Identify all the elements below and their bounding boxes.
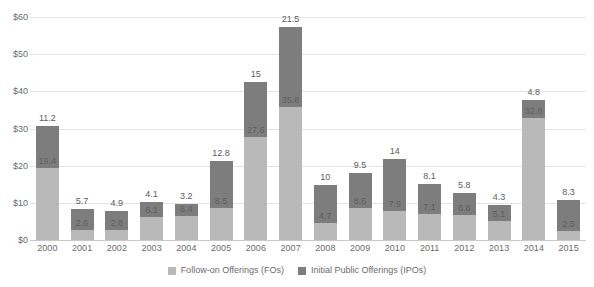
bar-value-label-fo: 2.5 [557, 220, 580, 229]
bar-group[interactable]: 5.86.8 [453, 17, 476, 240]
bar-value-label-fo: 32.8 [522, 107, 545, 116]
bar-value-label-fo: 8.5 [210, 197, 233, 206]
bar-value-label-fo: 2.6 [71, 219, 94, 228]
y-axis-tick-label: $40 [2, 87, 28, 96]
bar-value-label-fo: 35.8 [279, 96, 302, 105]
bar-value-label-ipo: 4.9 [105, 199, 128, 208]
bar-value-label-ipo: 12.8 [210, 149, 233, 158]
x-axis-tick-label: 2010 [378, 243, 413, 253]
x-axis-tick-label: 2003 [134, 243, 169, 253]
y-axis-tick-label: $20 [2, 162, 28, 171]
bar-value-label-fo: 4.7 [314, 212, 337, 221]
x-axis-tick-label: 2007 [273, 243, 308, 253]
bar-value-label-ipo: 10 [314, 173, 337, 182]
bar-segment-fo[interactable] [210, 208, 233, 240]
bar-value-label-fo: 6.4 [175, 205, 198, 214]
stacked-bar-chart: $0$10$20$30$40$50$60 11.219.45.72.64.92.… [0, 0, 594, 287]
bar-group[interactable]: 9.58.6 [349, 17, 372, 240]
y-axis-tick-label: $30 [2, 125, 28, 134]
bar-group[interactable]: 8.17.1 [418, 17, 441, 240]
bar-value-label-fo: 6.8 [453, 204, 476, 213]
bar-value-label-ipo: 14 [383, 147, 406, 156]
bar-value-label-ipo: 3.2 [175, 192, 198, 201]
bar-segment-fo[interactable] [488, 221, 511, 240]
x-axis: 2000200120022003200420052006200720082009… [30, 243, 586, 257]
bar-group[interactable]: 3.26.4 [175, 17, 198, 240]
bar-group[interactable]: 12.88.5 [210, 17, 233, 240]
bar-segment-fo[interactable] [105, 230, 128, 240]
bar-value-label-fo: 27.6 [244, 126, 267, 135]
bar-value-label-ipo: 9.5 [349, 161, 372, 170]
legend-label: Follow-on Offerings (FOs) [181, 266, 284, 275]
bar-value-label-ipo: 21.5 [279, 15, 302, 24]
bar-value-label-ipo: 8.3 [557, 188, 580, 197]
bar-segment-fo[interactable] [557, 231, 580, 240]
bar-group[interactable]: 21.535.8 [279, 17, 302, 240]
bar-group[interactable]: 8.32.5 [557, 17, 580, 240]
bar-segment-fo[interactable] [314, 223, 337, 240]
legend-item-ipo[interactable]: Initial Public Offerings (IPOs) [298, 266, 426, 275]
x-axis-tick-label: 2006 [239, 243, 274, 253]
bar-value-label-ipo: 4.1 [140, 190, 163, 199]
x-axis-tick-label: 2011 [412, 243, 447, 253]
bar-group[interactable]: 4.92.8 [105, 17, 128, 240]
legend-swatch-icon [168, 267, 176, 275]
bar-group[interactable]: 1527.6 [244, 17, 267, 240]
y-axis-tick-label: $60 [2, 13, 28, 22]
bar-value-label-ipo: 11.2 [36, 114, 59, 123]
bar-group[interactable]: 4.35.1 [488, 17, 511, 240]
bar-value-label-ipo: 4.3 [488, 193, 511, 202]
bar-segment-fo[interactable] [453, 215, 476, 240]
bar-group[interactable]: 11.219.4 [36, 17, 59, 240]
bar-value-label-fo: 19.4 [36, 157, 59, 166]
x-axis-tick-label: 2008 [308, 243, 343, 253]
bar-group[interactable]: 4.16.1 [140, 17, 163, 240]
chart-legend: Follow-on Offerings (FOs)Initial Public … [0, 266, 594, 275]
bar-segment-fo[interactable] [349, 208, 372, 240]
bar-segment-fo[interactable] [383, 211, 406, 240]
bar-value-label-ipo: 8.1 [418, 172, 441, 181]
x-axis-tick-label: 2013 [482, 243, 517, 253]
bar-value-label-fo: 7.9 [383, 200, 406, 209]
x-axis-tick-label: 2009 [343, 243, 378, 253]
bar-group[interactable]: 5.72.6 [71, 17, 94, 240]
x-axis-tick-label: 2004 [169, 243, 204, 253]
x-axis-tick-label: 2005 [204, 243, 239, 253]
bar-group[interactable]: 4.832.8 [522, 17, 545, 240]
bar-segment-fo[interactable] [522, 118, 545, 240]
bar-segment-fo[interactable] [71, 230, 94, 240]
bar-value-label-ipo: 5.8 [453, 181, 476, 190]
bar-segment-fo[interactable] [244, 137, 267, 240]
bars-layer: 11.219.45.72.64.92.84.16.13.26.412.88.51… [30, 17, 586, 240]
bar-value-label-fo: 8.6 [349, 197, 372, 206]
y-axis-tick-label: $10 [2, 199, 28, 208]
bar-group[interactable]: 147.9 [383, 17, 406, 240]
x-axis-tick-label: 2014 [517, 243, 552, 253]
gridline-0 [30, 240, 586, 241]
legend-item-fo[interactable]: Follow-on Offerings (FOs) [168, 266, 284, 275]
x-axis-tick-label: 2001 [65, 243, 100, 253]
bar-segment-fo[interactable] [418, 214, 441, 240]
bar-value-label-ipo: 15 [244, 70, 267, 79]
bar-segment-fo[interactable] [175, 216, 198, 240]
bar-value-label-ipo: 5.7 [71, 197, 94, 206]
x-axis-tick-label: 2012 [447, 243, 482, 253]
y-axis-tick-label: $50 [2, 50, 28, 59]
bar-value-label-fo: 6.1 [140, 206, 163, 215]
bar-value-label-ipo: 4.8 [522, 88, 545, 97]
bar-value-label-fo: 2.8 [105, 219, 128, 228]
bar-segment-fo[interactable] [36, 168, 59, 240]
x-axis-tick-label: 2000 [30, 243, 65, 253]
y-axis: $0$10$20$30$40$50$60 [0, 17, 28, 240]
bar-segment-fo[interactable] [279, 107, 302, 240]
bar-segment-fo[interactable] [140, 217, 163, 240]
legend-swatch-icon [298, 267, 306, 275]
x-axis-tick-label: 2002 [100, 243, 135, 253]
x-axis-tick-label: 2015 [551, 243, 586, 253]
bar-value-label-fo: 7.1 [418, 203, 441, 212]
legend-label: Initial Public Offerings (IPOs) [311, 266, 426, 275]
bar-value-label-fo: 5.1 [488, 210, 511, 219]
bar-group[interactable]: 104.7 [314, 17, 337, 240]
y-axis-tick-label: $0 [2, 236, 28, 245]
